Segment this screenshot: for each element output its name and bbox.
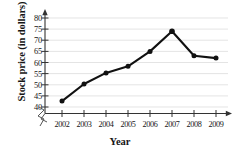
data-point-markers — [60, 29, 219, 104]
y-axis-arrow — [42, 9, 47, 15]
data-point-2002 — [60, 99, 65, 104]
data-point-2007 — [169, 29, 175, 35]
x-axis-arrow — [226, 111, 232, 116]
zigzag-break-mark-secondary — [41, 114, 47, 123]
axis-break-zigzag-icon — [38, 107, 47, 126]
data-point-2008 — [192, 53, 197, 58]
stock-price-line-chart: Stock price (in dollars) Year 80 75 70 6… — [0, 0, 240, 156]
data-line — [62, 31, 216, 101]
x-axis — [45, 110, 232, 117]
plot-area — [0, 0, 240, 156]
y-axis — [42, 9, 49, 114]
data-point-2005 — [126, 64, 131, 69]
data-point-2004 — [104, 70, 109, 75]
data-point-2009 — [214, 56, 219, 61]
data-point-2006 — [148, 49, 153, 54]
data-point-2003 — [82, 82, 87, 87]
